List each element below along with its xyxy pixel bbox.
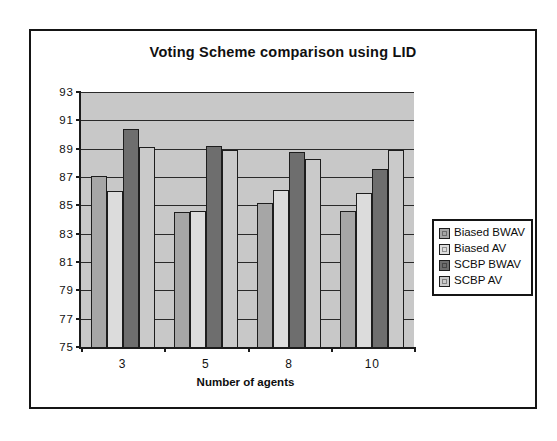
y-axis-tick-label: 81 xyxy=(59,256,74,268)
legend-item[interactable]: Biased BWAV xyxy=(439,225,525,241)
y-axis-tick-label: 75 xyxy=(59,341,74,353)
bar-group xyxy=(248,92,331,347)
x-axis-tick-mark xyxy=(414,347,416,352)
y-axis-tick-label: 77 xyxy=(59,313,74,325)
x-axis-tick-label: 8 xyxy=(285,357,293,371)
bar xyxy=(257,203,273,348)
plot-area: 93918987858381797775 35810 xyxy=(79,92,414,349)
y-axis-tick-label: 85 xyxy=(59,199,74,211)
legend-item[interactable]: Biased AV xyxy=(439,241,525,257)
legend-swatch-icon xyxy=(439,244,450,255)
bar xyxy=(91,176,107,347)
legend-swatch-icon xyxy=(439,276,450,287)
bar xyxy=(289,152,305,347)
bar xyxy=(372,169,388,348)
x-axis-tick-mark xyxy=(81,347,83,352)
chart-legend: Biased BWAVBiased AVSCBP BWAVSCBP AV xyxy=(432,219,533,296)
y-axis-tick-label: 89 xyxy=(59,143,74,155)
chart-title: Voting Scheme comparison using LID xyxy=(31,44,535,60)
legend-label: Biased BWAV xyxy=(454,227,525,239)
legend-item[interactable]: SCBP BWAV xyxy=(439,257,525,273)
y-axis-tick-label: 91 xyxy=(59,114,74,126)
bar xyxy=(340,211,356,347)
bar xyxy=(123,129,139,347)
x-axis-tick-mark xyxy=(248,347,250,352)
bar-group xyxy=(164,92,247,347)
y-axis-tick-label: 83 xyxy=(59,228,74,240)
legend-swatch-icon xyxy=(439,228,450,239)
bar xyxy=(107,191,123,347)
x-axis-tick-label: 10 xyxy=(365,357,380,371)
bar xyxy=(139,147,155,347)
bar xyxy=(222,150,238,347)
legend-item[interactable]: SCBP AV xyxy=(439,273,525,289)
y-axis-tick-label: 87 xyxy=(59,171,74,183)
legend-label: SCBP BWAV xyxy=(454,259,521,271)
legend-swatch-icon xyxy=(439,260,450,271)
chart-frame: Voting Scheme comparison using LID 93918… xyxy=(29,29,537,409)
bar xyxy=(388,150,404,347)
x-axis-tick-mark xyxy=(164,347,166,352)
bar xyxy=(190,211,206,347)
bar xyxy=(305,159,321,347)
x-axis-tick-label: 5 xyxy=(202,357,210,371)
legend-label: SCBP AV xyxy=(454,275,502,287)
x-axis-title: Number of agents xyxy=(79,376,412,388)
bar xyxy=(273,190,289,347)
x-axis-tick-mark xyxy=(331,347,333,352)
bar xyxy=(356,193,372,347)
bar xyxy=(206,146,222,347)
y-axis-tick-label: 93 xyxy=(59,86,74,98)
bar-group xyxy=(331,92,414,347)
y-axis-tick-label: 79 xyxy=(59,284,74,296)
legend-label: Biased AV xyxy=(454,243,506,255)
x-axis-tick-label: 3 xyxy=(119,357,127,371)
bars-layer xyxy=(81,92,414,347)
bar-group xyxy=(81,92,164,347)
bar xyxy=(174,212,190,347)
